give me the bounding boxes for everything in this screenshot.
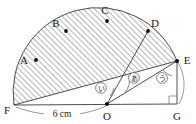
point-label-G: G <box>173 110 181 122</box>
angle-label-u-text: う <box>159 75 166 83</box>
angle-label-u: う <box>157 73 168 84</box>
point-label-A: A <box>20 54 28 66</box>
point-dot-B <box>64 29 68 33</box>
dimension-label-6cm: 6 cm <box>53 109 72 119</box>
point-label-B: B <box>52 17 59 29</box>
angle-label-a: あ <box>129 73 140 84</box>
right-angle-mark-g <box>169 96 177 104</box>
point-label-D: D <box>151 17 159 29</box>
point-label-C: C <box>101 4 108 16</box>
angle-label-i-text: い <box>98 85 105 93</box>
dimension-label-group: 6 cm <box>44 108 80 120</box>
point-dot-D <box>146 29 150 33</box>
arc-eg <box>177 61 184 104</box>
point-dot-E <box>175 59 179 63</box>
point-label-O: O <box>103 110 111 122</box>
angle-label-a-text: あ <box>131 75 138 83</box>
angle-label-i: い <box>96 83 107 94</box>
point-dot-O <box>105 102 109 106</box>
baseline-fg <box>14 104 177 105</box>
geometry-figure: A B C D E F O G 6 cm あ い う <box>0 0 196 124</box>
figure-canvas: A B C D E F O G 6 cm あ い う <box>0 0 196 124</box>
point-dot-A <box>34 58 38 62</box>
point-dot-C <box>105 19 109 23</box>
point-label-F: F <box>4 104 10 116</box>
point-label-E: E <box>184 54 191 66</box>
